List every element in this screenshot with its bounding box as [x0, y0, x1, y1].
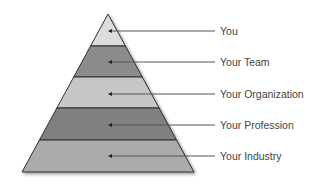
level-label-team: Your Team: [220, 56, 270, 68]
pyramid-bands: [22, 14, 194, 172]
level-label-organization: Your Organization: [220, 88, 304, 100]
level-label-profession: Your Profession: [220, 119, 294, 131]
pyramid-level-2: [57, 77, 159, 108]
pyramid-level-3: [39, 108, 176, 140]
level-label-you: You: [220, 25, 238, 37]
level-label-industry: Your Industry: [220, 150, 281, 162]
pyramid-level-0: [91, 14, 126, 46]
